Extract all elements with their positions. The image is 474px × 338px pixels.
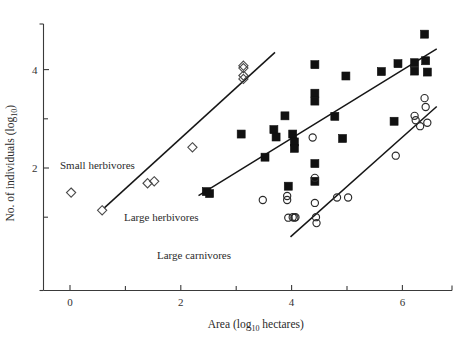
data-point-large-herbivores [421, 30, 429, 38]
data-point-large-herbivores [237, 130, 245, 138]
data-point-large-carnivores [392, 152, 399, 159]
data-point-large-carnivores [311, 199, 318, 206]
data-markers [67, 30, 432, 227]
data-point-large-herbivores [311, 61, 319, 69]
data-point-large-carnivores [421, 95, 428, 102]
data-point-large-herbivores [411, 59, 419, 67]
data-point-large-herbivores [261, 153, 269, 161]
data-point-large-herbivores [281, 112, 289, 120]
data-point-large-herbivores [377, 68, 385, 76]
data-point-large-herbivores [270, 126, 278, 134]
data-point-large-herbivores [342, 72, 350, 80]
y-tick-label: 4 [32, 64, 38, 76]
data-point-large-herbivores [206, 190, 214, 198]
data-point-large-carnivores [424, 119, 431, 126]
data-point-large-herbivores [411, 67, 419, 75]
y-tick-label: 2 [32, 162, 38, 174]
series-annotations: Small herbivoresLarge herbivoresLarge ca… [60, 159, 231, 261]
data-point-large-herbivores [390, 117, 398, 125]
data-point-large-herbivores [290, 144, 298, 152]
x-tick-label: 2 [178, 296, 184, 308]
data-point-large-carnivores [259, 196, 266, 203]
annotation-large-carnivores: Large carnivores [157, 249, 231, 261]
data-point-small-herbivores [67, 188, 76, 197]
trend-lines [104, 49, 436, 237]
x-tick-label: 0 [67, 296, 73, 308]
annotation-large-herbivores: Large herbivores [124, 211, 199, 223]
data-point-large-carnivores [422, 103, 429, 110]
trend-line-small-herbivores [104, 52, 275, 207]
data-point-large-herbivores [289, 130, 297, 138]
data-point-large-herbivores [284, 182, 292, 190]
scatter-plot-figure: 024624 Small herbivoresLarge herbivoresL… [0, 0, 474, 338]
data-point-large-herbivores [311, 89, 319, 97]
data-point-large-carnivores [309, 134, 316, 141]
tick-labels: 024624 [32, 64, 406, 308]
data-point-large-herbivores [311, 160, 319, 168]
plot-canvas: 024624 Small herbivoresLarge herbivoresL… [0, 0, 474, 338]
annotation-small-herbivores: Small herbivores [60, 159, 135, 171]
x-axis-title: Area (log10 hectares) [208, 318, 304, 333]
data-point-large-carnivores [345, 194, 352, 201]
data-point-large-carnivores [417, 123, 424, 130]
data-point-large-herbivores [339, 134, 347, 142]
data-point-large-herbivores [423, 68, 431, 76]
data-point-large-herbivores [272, 133, 280, 141]
data-point-large-herbivores [394, 60, 402, 68]
data-point-large-herbivores [422, 57, 430, 65]
y-axis-title: No. of individuals (log10) [4, 105, 19, 222]
data-point-small-herbivores [188, 143, 197, 152]
data-point-large-herbivores [331, 112, 339, 120]
x-tick-label: 4 [289, 296, 295, 308]
data-point-large-herbivores [311, 97, 319, 105]
x-tick-label: 6 [400, 296, 406, 308]
trend-line-large-herbivores [199, 49, 437, 196]
